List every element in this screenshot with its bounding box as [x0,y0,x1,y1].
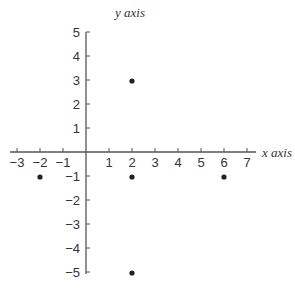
y-tick-label: −2 [65,193,80,208]
y-axis-title: y axis [113,5,145,20]
x-tick-label: 1 [105,155,112,170]
x-tick-label: −1 [56,155,71,170]
data-point [221,174,226,179]
x-tick-label: 2 [128,155,135,170]
scatter-chart: −3−2−11234567 54321−1−2−3−4−5 y axis x a… [0,0,295,290]
data-point [129,270,134,275]
x-tick-label: −3 [10,155,25,170]
x-tick-label: 4 [174,155,181,170]
y-tick-label: −3 [65,217,80,232]
y-tick-label: 4 [73,49,80,64]
y-tick-label: −1 [65,169,80,184]
y-tick-label: 1 [73,121,80,136]
axes [10,32,256,274]
data-point [129,78,134,83]
x-tick-label: −2 [33,155,48,170]
x-axis-title: x axis [261,145,292,160]
y-tick-label: −4 [65,241,80,256]
x-axis-ticks: −3−2−11234567 [10,148,251,170]
x-tick-label: 3 [151,155,158,170]
data-point [37,174,42,179]
y-tick-label: 3 [73,73,80,88]
x-tick-label: 5 [197,155,204,170]
data-point [129,174,134,179]
y-tick-label: 2 [73,97,80,112]
x-tick-label: 6 [220,155,227,170]
y-tick-label: −5 [65,265,80,280]
x-tick-label: 7 [243,155,250,170]
y-tick-label: 5 [73,25,80,40]
